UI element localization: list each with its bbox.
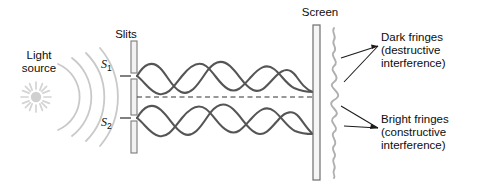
slit-2-label: S2 (101, 115, 112, 131)
slit-1-label: S1 (101, 57, 112, 73)
dark-fringes-leader-lines (341, 45, 378, 83)
screen-label: Screen (293, 6, 347, 19)
wave-train-lower (137, 105, 313, 137)
slit-barrier (131, 41, 137, 153)
bright-fringes-label: Bright fringes (constructive interferenc… (381, 113, 478, 153)
slit-1-subscript: 1 (107, 63, 112, 73)
wave-train-upper (137, 62, 313, 94)
light-source-core (31, 92, 41, 102)
slit-tick-marks (120, 76, 131, 118)
screen-bar (313, 25, 320, 180)
fringe-intensity-curve (331, 28, 338, 178)
diagram-canvas: Light source Slits Screen Dark fringes (… (0, 0, 478, 195)
dark-fringes-label: Dark fringes (destructive interference) (381, 31, 475, 71)
slit-2-subscript: 2 (107, 121, 112, 131)
bright-fringes-leader-lines (341, 106, 378, 129)
double-slit-diagram (0, 0, 478, 195)
slits-label: Slits (103, 28, 149, 41)
light-source-label: Light source (6, 49, 72, 75)
